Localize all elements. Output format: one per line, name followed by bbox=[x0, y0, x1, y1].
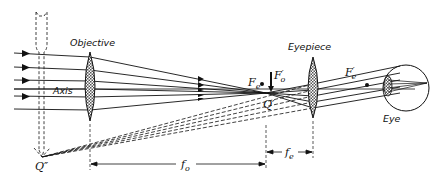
q-double-prime-label: Q″ bbox=[35, 160, 49, 173]
axis-label: Axis bbox=[52, 85, 73, 96]
fe-point bbox=[260, 82, 264, 86]
fo-prime-label: F′o bbox=[273, 68, 285, 84]
telescope-diagram: Objective Eyepiece Axis Eye Fe F′o F′e Q… bbox=[0, 0, 431, 183]
eye-label: Eye bbox=[383, 113, 401, 124]
fo-dimension-label: fo bbox=[180, 158, 190, 173]
ray-arrows bbox=[22, 50, 30, 100]
q-prime-label: Q′ bbox=[263, 98, 275, 111]
objective-lens bbox=[85, 52, 95, 121]
fe-dimension-label: fe bbox=[284, 146, 294, 161]
distant-object-outline bbox=[34, 12, 50, 157]
fe-label: Fe bbox=[247, 76, 261, 91]
objective-label: Objective bbox=[70, 37, 115, 48]
fo-dimension bbox=[91, 162, 265, 166]
fe-prime-point bbox=[365, 83, 369, 87]
fe-prime-label: F′e bbox=[344, 65, 356, 81]
eye bbox=[383, 65, 429, 111]
eyepiece-label: Eyepiece bbox=[288, 41, 331, 52]
converging-rays bbox=[90, 57, 266, 110]
